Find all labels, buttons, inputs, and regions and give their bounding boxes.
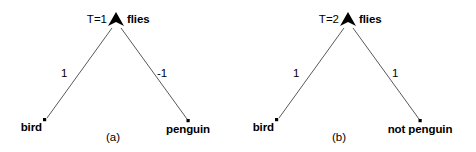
panel-caption-b: (b) — [332, 132, 346, 144]
edge-flies-penguin-a — [121, 28, 187, 119]
edge-weight-penguin-a: -1 — [157, 68, 167, 80]
leaf-dot-bird-a — [43, 118, 46, 121]
leaf-dot-bird-b — [275, 118, 278, 121]
leaf-label-not-penguin-b: not penguin — [388, 124, 453, 136]
edge-flies-bird-b — [279, 28, 344, 118]
edge-weight-bird-a: 1 — [61, 68, 67, 80]
figure-canvas: T=1 flies 1 -1 bird penguin (a) T=2 flie… — [0, 0, 476, 152]
root-tag-b: T=2 — [319, 14, 339, 26]
edge-flies-bird-a — [47, 28, 112, 118]
leaf-dot-penguin-a — [187, 119, 190, 122]
panel-caption-a: (a) — [106, 132, 120, 144]
leaf-dot-not-penguin-b — [419, 119, 422, 122]
edge-weight-bird-b: 1 — [293, 68, 299, 80]
leaf-label-penguin-a: penguin — [166, 124, 210, 136]
edge-flies-not-penguin-b — [353, 28, 419, 119]
leaf-label-bird-b: bird — [253, 122, 274, 134]
edge-weight-not-penguin-b: 1 — [392, 68, 398, 80]
root-tag-a: T=1 — [87, 14, 107, 26]
leaf-label-bird-a: bird — [21, 122, 42, 134]
root-label-flies-a: flies — [127, 14, 150, 26]
root-label-flies-b: flies — [359, 14, 382, 26]
root-triangle-marker-a — [108, 12, 124, 26]
root-triangle-marker-b — [340, 12, 356, 26]
